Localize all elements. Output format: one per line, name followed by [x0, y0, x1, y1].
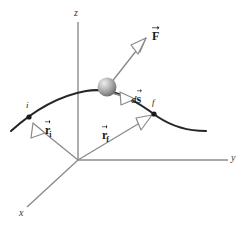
z-axis-label: z [74, 8, 78, 18]
ds-vector-arrow-accent: s [137, 93, 142, 105]
x-axis-label: x [19, 208, 23, 218]
initial-point-dot [26, 114, 31, 119]
ds-symbol: s [137, 93, 142, 105]
r-initial-vector-label: r i [45, 124, 53, 136]
force-vector-arrow-accent: F [152, 30, 159, 42]
r-initial-arrowhead [31, 123, 45, 138]
axes-group [27, 22, 228, 207]
r-final-shaft [78, 118, 148, 160]
force-arrowhead-outline [131, 38, 146, 54]
x-axis-line [27, 160, 78, 207]
r-final-arrowhead [136, 115, 152, 130]
r-final-vector-label: r f [102, 129, 110, 141]
diagram-canvas [0, 0, 249, 228]
y-axis-label: y [231, 153, 235, 163]
force-vector-label: F [152, 30, 159, 42]
r-final-subscript: f [106, 135, 109, 144]
final-point-label: f [152, 98, 155, 107]
initial-point-label: i [26, 101, 29, 110]
particle-sphere-group [98, 78, 117, 97]
physics-diagram: z y x i f F d s [0, 0, 249, 228]
particle-sphere [98, 78, 117, 97]
force-symbol: F [152, 30, 159, 42]
r-initial-subscript: i [49, 130, 51, 139]
final-point-dot [151, 111, 156, 116]
ds-vector-label: d s [131, 93, 141, 105]
position-vector-shafts [36, 118, 148, 160]
